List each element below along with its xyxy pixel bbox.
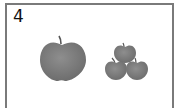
small-apples-icon <box>105 43 148 80</box>
big-apple-icon <box>40 36 86 81</box>
apples-illustration <box>0 0 178 108</box>
